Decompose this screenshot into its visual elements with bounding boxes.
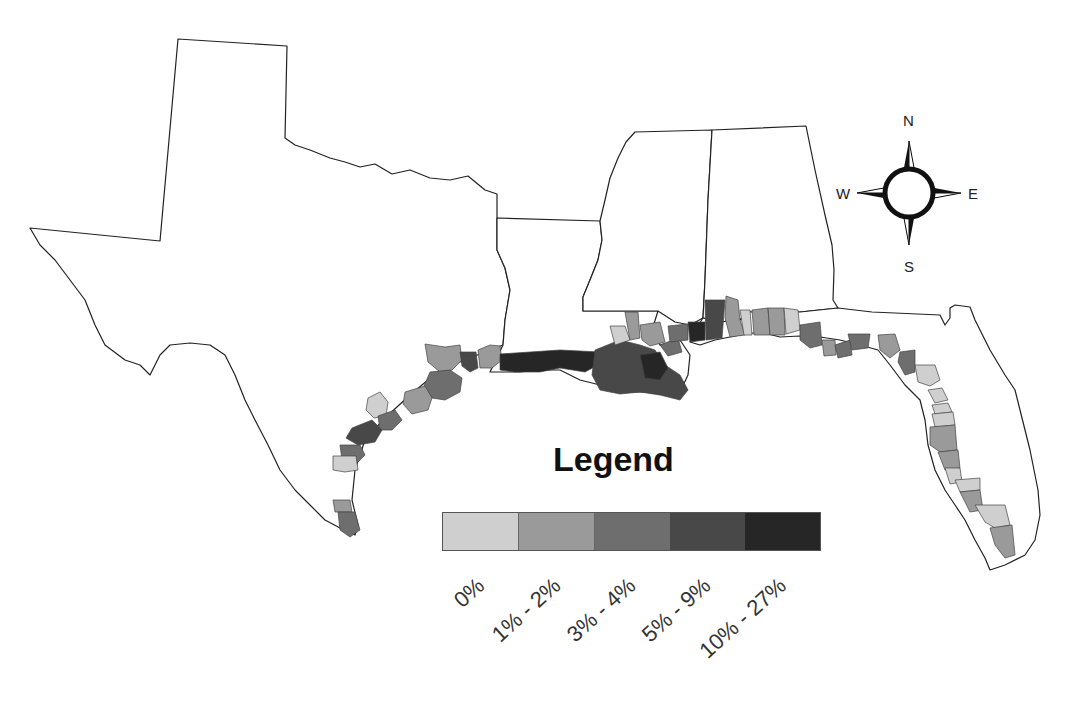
compass-rose	[857, 141, 961, 245]
legend-swatch-0	[443, 513, 519, 550]
compass-east-label: E	[968, 185, 978, 202]
state-texas	[30, 39, 510, 535]
legend-swatch-2	[595, 513, 670, 550]
legend-swatch-4	[745, 513, 820, 550]
compass-south-label: S	[904, 258, 914, 275]
legend-swatch-1	[519, 513, 595, 550]
legend-title: Legend	[553, 440, 674, 479]
compass-west-label: W	[836, 185, 850, 202]
state-alabama	[703, 126, 838, 322]
legend-swatch-3	[670, 513, 745, 550]
state-mississippi	[583, 130, 712, 325]
compass-north-label: N	[903, 112, 914, 129]
legend-color-bar	[442, 512, 821, 551]
